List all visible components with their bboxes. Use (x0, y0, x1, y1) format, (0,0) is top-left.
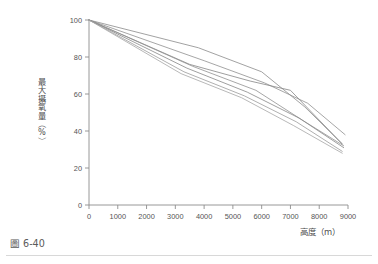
y-tick-label: 20 (74, 164, 82, 173)
figure-caption: 圖 6-40 (10, 236, 45, 250)
y-tick-label: 80 (74, 53, 82, 62)
x-tick-label: 8000 (311, 212, 327, 221)
x-tick-label: 2000 (138, 212, 154, 221)
bottom-divider (6, 255, 372, 256)
axes-group: 0204060801000100020003000400050006000700… (70, 16, 357, 221)
x-tick-label: 4000 (196, 212, 212, 221)
x-tick-label: 9000 (340, 212, 356, 221)
y-tick-label: 60 (74, 90, 82, 99)
x-tick-label: 5000 (225, 212, 241, 221)
x-tick-label: 3000 (167, 212, 183, 221)
x-tick-label: 0 (87, 212, 91, 221)
y-tick-label: 100 (70, 16, 82, 25)
y-axis-title-char: （ (38, 116, 46, 132)
x-tick-label: 6000 (253, 212, 269, 221)
x-tick-label: 1000 (110, 212, 126, 221)
x-axis-title: 高度（m） (300, 225, 340, 237)
figure-root: 0204060801000100020003000400050006000700… (0, 0, 378, 264)
series-group (89, 20, 345, 153)
y-axis-title-char: ） (38, 133, 46, 149)
series-line-study-7 (89, 20, 342, 153)
y-axis-title: 最大攝氧量（%） (34, 78, 50, 145)
x-tick-label: 7000 (282, 212, 298, 221)
y-tick-label: 40 (74, 127, 82, 136)
series-line-study-5 (89, 20, 344, 148)
y-tick-label: 0 (78, 201, 82, 210)
